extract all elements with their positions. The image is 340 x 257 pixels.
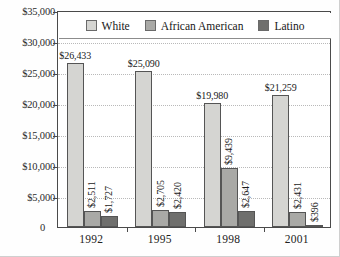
bar-value-label: $9,439 (223, 139, 234, 166)
x-axis-tick-label: 2001 (285, 233, 309, 245)
x-axis-tick-mark (127, 227, 128, 232)
legend-swatch-icon (145, 20, 156, 31)
bar[interactable] (306, 225, 323, 227)
bar-value-label: $2,705 (155, 180, 166, 207)
bar[interactable] (169, 212, 186, 227)
bar[interactable] (101, 216, 118, 227)
bar-chart-figure: $35,000$30,000$25,000$20,000$15,000$10,0… (0, 0, 340, 257)
bar[interactable] (238, 211, 255, 227)
bar-value-label: $2,647 (240, 181, 251, 208)
legend-label: African American (161, 20, 244, 32)
bar-value-label: $21,259 (265, 82, 297, 93)
bar-value-label: $19,980 (196, 90, 228, 101)
bar[interactable] (84, 211, 101, 227)
bar-group-2001: $21,259$2,431$396 (264, 12, 333, 227)
x-axis-tick-label: 1992 (79, 233, 103, 245)
x-axis-tick-mark (264, 227, 265, 232)
bar[interactable] (272, 95, 289, 227)
bar[interactable] (152, 210, 169, 227)
legend-entry-2[interactable]: Latino (258, 20, 304, 32)
legend-label: White (102, 20, 130, 32)
bar-value-label: $396 (309, 202, 320, 222)
x-axis-tick-mark (195, 227, 196, 232)
bar-group-1998: $19,980$9,439$2,647 (195, 12, 264, 227)
bar-value-label: $1,727 (103, 186, 114, 213)
y-axis-tick-label: $20,000 (22, 99, 55, 110)
y-axis-tick-label: $10,000 (22, 161, 55, 172)
x-axis-tick-label: 1998 (216, 233, 240, 245)
bar[interactable] (135, 71, 152, 227)
legend-label: Latino (274, 20, 304, 32)
legend-entry-0[interactable]: White (86, 20, 130, 32)
bar[interactable] (67, 63, 84, 227)
bar-value-label: $2,511 (86, 182, 97, 209)
bar[interactable] (204, 103, 221, 227)
y-axis-tick-label: $15,000 (22, 130, 55, 141)
bar-value-label: $2,431 (292, 182, 303, 209)
legend-entry-1[interactable]: African American (145, 20, 244, 32)
chart-legend: WhiteAfrican AmericanLatino (59, 13, 331, 39)
y-axis-tick-label: $35,000 (22, 6, 55, 17)
legend-swatch-icon (258, 20, 269, 31)
legend-swatch-icon (86, 20, 97, 31)
bars-layer: $26,433$2,511$1,727$25,090$2,705$2,420$1… (58, 12, 330, 227)
bar-value-label: $2,420 (172, 182, 183, 209)
x-axis-tick-label: 1995 (148, 233, 172, 245)
bar-group-1992: $26,433$2,511$1,727 (58, 12, 127, 227)
plot-area: $26,433$2,511$1,727$25,090$2,705$2,420$1… (57, 11, 331, 228)
bar[interactable] (221, 168, 238, 227)
bar[interactable] (289, 212, 306, 227)
y-axis-zero-label: 0 (40, 222, 45, 233)
y-axis-tick-label: $30,000 (22, 37, 55, 48)
bar-value-label: $26,433 (59, 50, 91, 61)
bar-group-1995: $25,090$2,705$2,420 (127, 12, 196, 227)
y-axis-tick-label: $5,000 (27, 192, 55, 203)
y-axis-tick-label: $25,000 (22, 68, 55, 79)
bar-value-label: $25,090 (128, 58, 160, 69)
